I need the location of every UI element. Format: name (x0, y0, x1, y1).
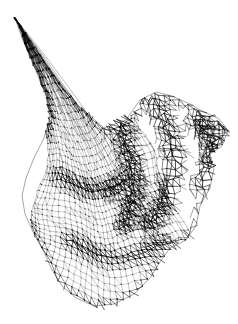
wireframe-mesh-canvas (0, 0, 238, 324)
wireframe-figure: Quad-dominant remeshed organic drapery s… (0, 0, 238, 324)
